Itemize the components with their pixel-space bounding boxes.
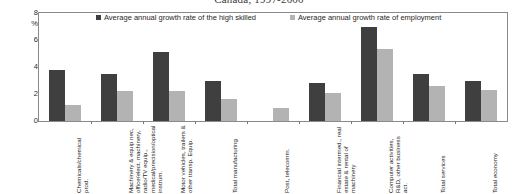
- category-tick: [351, 121, 352, 124]
- category-label-text: Total services: [439, 125, 446, 193]
- category-label: Total services: [439, 125, 446, 193]
- chart-title: Canada, 1997-2000: [0, 0, 518, 5]
- category-label-text: Computer activities, R&D, other business…: [387, 125, 409, 193]
- category-label: Financial intermed., real estate & renta…: [335, 125, 357, 193]
- bar-group: [299, 13, 351, 121]
- plot-area: [39, 13, 507, 121]
- category-tick: [403, 121, 404, 124]
- category-label-text: Chemicals/chemical prod.: [75, 125, 89, 193]
- category-tick: [91, 121, 92, 124]
- bar: [465, 81, 481, 122]
- category-tick: [247, 121, 248, 124]
- bar: [325, 93, 341, 121]
- bar: [117, 91, 133, 121]
- bar-chart: Canada, 1997-2000 % 02468 Average annual…: [0, 0, 518, 194]
- bar: [429, 86, 445, 121]
- bar: [49, 70, 65, 121]
- category-label-text: Financial intermed., real estate & renta…: [335, 125, 357, 193]
- category-label: Post, telecomm.: [283, 125, 290, 193]
- category-label-text: Motor vehicles, trailers & other transp.…: [179, 125, 193, 193]
- y-axis-unit-label: %: [31, 20, 38, 28]
- category-label: Motor vehicles, trailers & other transp.…: [179, 125, 193, 193]
- bar: [309, 83, 325, 121]
- bar: [361, 27, 377, 122]
- category-label: Chemicals/chemical prod.: [75, 125, 89, 193]
- category-label-text: Total manufacturing: [231, 125, 238, 193]
- category-label: Computer activities, R&D, other business…: [387, 125, 409, 193]
- bar-group: [247, 13, 299, 121]
- bar-group: [351, 13, 403, 121]
- category-label-text: Total economy: [491, 125, 498, 193]
- y-axis: % 02468: [14, 12, 38, 122]
- category-tick: [195, 121, 196, 124]
- category-tick: [299, 121, 300, 124]
- category-label: Total economy: [491, 125, 498, 193]
- bar: [153, 52, 169, 121]
- bar: [377, 49, 393, 121]
- category-label: Total manufacturing: [231, 125, 238, 193]
- category-tick: [143, 121, 144, 124]
- bar: [169, 91, 185, 121]
- bar: [101, 74, 117, 121]
- bar-group: [143, 13, 195, 121]
- category-label-text: Machinery & equip nec, office/elect. mac…: [127, 125, 163, 193]
- bar-group: [403, 13, 455, 121]
- bar-group: [195, 13, 247, 121]
- bar: [205, 81, 221, 122]
- category-tick: [455, 121, 456, 124]
- bar: [413, 74, 429, 121]
- category-axis-labels: Chemicals/chemical prod.Machinery & equi…: [39, 125, 507, 194]
- bar: [481, 90, 497, 121]
- bar: [221, 99, 237, 121]
- bar-group: [39, 13, 91, 121]
- category-label-text: Post, telecomm.: [283, 125, 290, 193]
- bar: [273, 108, 289, 122]
- bar-group: [455, 13, 507, 121]
- category-label: Machinery & equip nec, office/elect. mac…: [127, 125, 163, 193]
- bar: [65, 105, 81, 121]
- bar-group: [91, 13, 143, 121]
